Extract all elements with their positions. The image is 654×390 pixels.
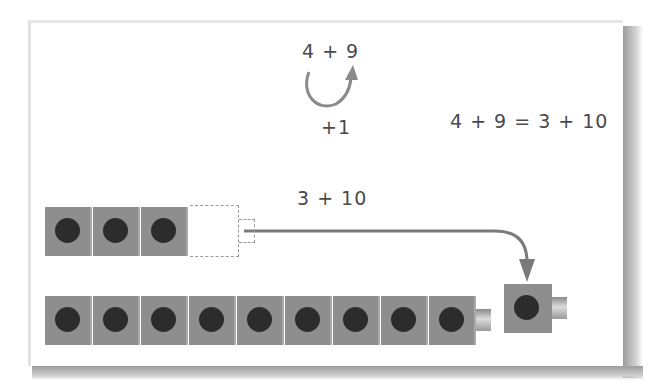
dot-icon xyxy=(103,218,128,243)
dot-icon xyxy=(439,307,464,332)
dot-icon xyxy=(343,307,368,332)
dot-icon xyxy=(295,307,320,332)
cube xyxy=(93,207,140,256)
dot-icon xyxy=(247,307,272,332)
cube xyxy=(333,296,380,345)
dot-icon xyxy=(151,307,176,332)
cube xyxy=(141,207,188,256)
cube xyxy=(45,296,92,345)
dot-icon xyxy=(103,307,128,332)
transfer-arrow-icon xyxy=(244,231,527,262)
cube-knob xyxy=(476,309,491,331)
cube-knob xyxy=(552,297,567,319)
cube xyxy=(237,296,284,345)
ghost-cube-outline xyxy=(190,205,239,257)
dot-icon xyxy=(514,295,539,320)
dot-icon xyxy=(391,307,416,332)
moved-cube xyxy=(504,284,552,333)
cube xyxy=(381,296,428,345)
dot-icon xyxy=(151,218,176,243)
cube xyxy=(141,296,188,345)
cube xyxy=(45,207,92,256)
curved-arrow-icon xyxy=(307,72,351,106)
dot-icon xyxy=(199,307,224,332)
cube xyxy=(429,296,476,345)
curved-arrowhead-icon xyxy=(345,65,358,80)
ghost-knob-outline xyxy=(239,219,255,243)
cube xyxy=(285,296,332,345)
cube xyxy=(189,296,236,345)
cube xyxy=(93,296,140,345)
transfer-arrowhead-icon xyxy=(519,259,535,282)
dot-icon xyxy=(55,218,80,243)
dot-icon xyxy=(55,307,80,332)
